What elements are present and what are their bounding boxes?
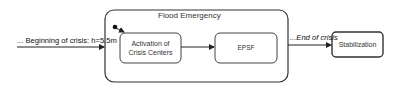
end-of-crisis-label: ...End of crisis — [290, 34, 338, 42]
activation-label-line1: Activation of — [131, 39, 169, 48]
activation-state-label: Activation of Crisis Centers — [120, 33, 181, 63]
beginning-of-crisis-label: ... Beginning of crisis: h=5.5m — [17, 37, 117, 45]
stabilization-state-label: Stabilization — [332, 32, 383, 57]
flood-emergency-title: Flood Emergency — [158, 12, 221, 20]
epsf-state-label: EPSF — [215, 33, 277, 63]
activation-label-line2: Crisis Centers — [129, 48, 173, 57]
